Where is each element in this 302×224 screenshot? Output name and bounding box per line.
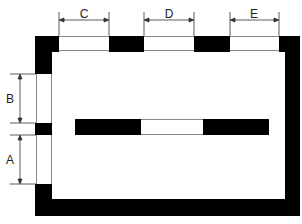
diagram-canvas: C D E B A [0, 0, 302, 224]
label-c: C [80, 7, 89, 21]
label-b: B [6, 92, 14, 106]
opening-b [35, 74, 52, 123]
opening-d [144, 36, 194, 52]
center-bar [75, 119, 269, 135]
opening-a [35, 135, 52, 184]
label-e: E [250, 7, 258, 21]
label-d: D [165, 7, 174, 21]
center-bar-gap [141, 120, 203, 134]
opening-e [230, 36, 279, 52]
opening-c [59, 36, 109, 52]
label-a: A [6, 153, 14, 167]
